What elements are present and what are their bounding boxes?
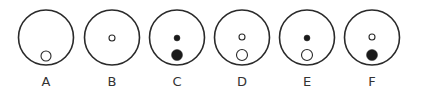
hollow-dot	[369, 34, 375, 40]
panel-e	[280, 10, 335, 65]
filled-dot	[367, 50, 378, 61]
panel-label: B	[102, 74, 122, 89]
hollow-dot	[302, 50, 313, 61]
hollow-dot	[237, 50, 248, 61]
panel-f	[345, 10, 400, 65]
filled-dot	[304, 35, 310, 41]
panel-label: F	[362, 74, 382, 89]
panel-label: C	[167, 74, 187, 89]
hollow-dot	[109, 35, 115, 41]
filled-dot	[174, 35, 180, 41]
panel-label: E	[297, 74, 317, 89]
circles-diagram	[0, 0, 422, 93]
hollow-dot	[239, 34, 245, 40]
filled-dot	[172, 50, 183, 61]
panel-a	[19, 10, 74, 65]
panel-label: A	[36, 74, 56, 89]
panel-d	[215, 10, 270, 65]
panel-b	[85, 10, 140, 65]
panel-c	[150, 10, 205, 65]
panel-label: D	[232, 74, 252, 89]
hollow-dot	[41, 51, 51, 61]
